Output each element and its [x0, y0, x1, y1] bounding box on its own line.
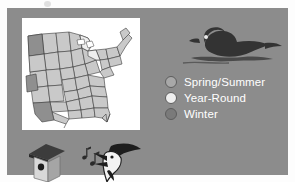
- content-panel: Spring/Summer Year-Round Winter: [7, 8, 288, 175]
- birdhouse-svg: [25, 141, 69, 182]
- legend-item-spring-summer[interactable]: Spring/Summer: [165, 74, 293, 90]
- circle-swatch-icon: [165, 92, 177, 104]
- circle-swatch-icon: [165, 108, 177, 120]
- legend-item-winter[interactable]: Winter: [165, 106, 293, 122]
- legend-item-label: Spring/Summer: [184, 76, 265, 88]
- songbird-svg: [81, 140, 145, 182]
- birdhouse-icon: [25, 141, 69, 182]
- circle-swatch-icon: [165, 76, 177, 88]
- legend: Spring/Summer Year-Round Winter: [165, 74, 293, 122]
- legend-item-label: Year-Round: [184, 92, 246, 104]
- top-edge-artifact: [44, 1, 51, 7]
- wood-duck-svg: [177, 25, 285, 69]
- range-map-svg: [22, 18, 140, 130]
- music-notes-icon: [82, 146, 100, 166]
- legend-item-year-round[interactable]: Year-Round: [165, 90, 293, 106]
- wood-duck-silhouette: [177, 25, 285, 69]
- range-map-card: [22, 18, 140, 130]
- singing-bird-head-icon: [81, 140, 145, 182]
- range-map-infographic: Spring/Summer Year-Round Winter: [0, 0, 295, 182]
- legend-item-label: Winter: [184, 108, 218, 120]
